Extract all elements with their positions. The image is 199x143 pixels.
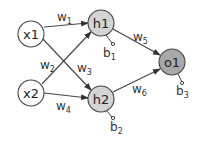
weight-w3-label: w3 [77,61,92,77]
weight-w4-label: w4 [56,99,71,115]
edge-x2-h2 [44,93,88,98]
node-x1: x1 [18,21,44,47]
bias-b1-label: b1 [103,46,116,62]
node-x1-label: x1 [23,27,39,42]
weight-w5-label: w5 [133,30,148,46]
node-x2-label: x2 [23,86,39,101]
node-h2-label: h2 [93,92,110,107]
weight-w6-label: w6 [132,82,147,98]
node-h1-label: h1 [93,16,110,31]
node-h1: h1 [88,10,114,36]
bias-h1-terminal [111,42,114,45]
weight-w1-label: w1 [57,10,72,26]
weight-w2-label: w2 [40,58,55,74]
neural-network-diagram: x1 x2 h1 h2 o1 w1 w2 w3 w4 w5 w6 b1 b2 b… [0,0,199,143]
node-o1-label: o1 [164,55,180,70]
node-o1: o1 [159,49,185,75]
bias-stubs [106,35,184,120]
node-h2: h2 [88,86,114,112]
bias-b3-label: b3 [176,84,189,100]
node-x2: x2 [18,80,44,106]
bias-b2-label: b2 [110,120,123,136]
